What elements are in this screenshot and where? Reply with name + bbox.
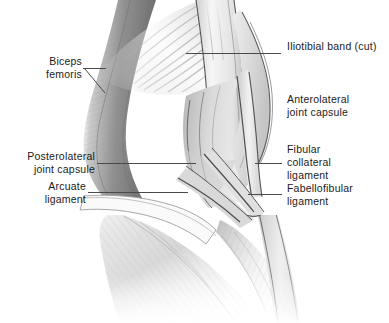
- label-arcuate-ligament: Arcuate ligament: [0, 180, 86, 206]
- anatomy-figure: Iliotibial band (cut) Biceps femoris Ant…: [0, 0, 389, 323]
- label-posterolateral-joint-capsule: Posterolateral joint capsule: [0, 150, 95, 176]
- label-fabellofibular-ligament: Fabellofibular ligament: [287, 182, 387, 208]
- label-biceps-femoris: Biceps femoris: [0, 55, 82, 81]
- label-fibular-collateral-ligament: Fibular collateral ligament: [287, 143, 382, 182]
- label-anterolateral-joint-capsule: Anterolateral joint capsule: [287, 93, 387, 119]
- label-iliotibial-band: Iliotibial band (cut): [287, 40, 387, 53]
